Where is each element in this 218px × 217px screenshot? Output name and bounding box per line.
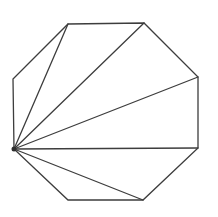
diagonal-left-bottom-to-top-left: [14, 24, 68, 149]
fan-vertex-dot: [12, 147, 17, 152]
octagon-outline: [13, 23, 198, 200]
diagonal-left-bottom-to-right-top: [14, 77, 198, 149]
figure-canvas: [0, 0, 218, 217]
diagonal-left-bottom-to-bottom-right: [14, 149, 143, 200]
diagonal-left-bottom-to-top-right: [14, 23, 144, 149]
octagon-fan-figure: [0, 0, 218, 217]
diagonal-left-bottom-to-right-bottom: [14, 148, 198, 149]
